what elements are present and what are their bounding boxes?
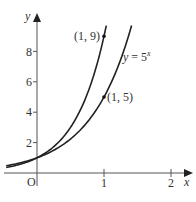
- y-tick-label-4: 4: [26, 105, 32, 119]
- exponential-graph-figure: y x O 8 6 4 2 1 2 (1, 9) (1, 5) y = 5x: [0, 0, 196, 202]
- y-ticks: [33, 51, 37, 142]
- point-1-5-marker: [102, 95, 106, 99]
- y-tick-label-2: 2: [26, 136, 32, 150]
- point-1-9-label: (1, 9): [74, 29, 100, 43]
- curve-9-power-x: [6, 26, 106, 168]
- y-axis-label: y: [24, 9, 31, 23]
- x-tick-label-1: 1: [101, 176, 107, 190]
- point-1-5-label: (1, 5): [107, 90, 133, 104]
- y-tick-label-6: 6: [26, 75, 32, 89]
- x-tick-label-2: 2: [168, 176, 174, 190]
- curve-5x-label: y = 5x: [122, 49, 151, 64]
- point-1-9-marker: [102, 34, 106, 38]
- x-axis-label: x: [183, 175, 190, 189]
- graph-canvas: y x O 8 6 4 2 1 2 (1, 9) (1, 5) y = 5x: [0, 0, 196, 202]
- y-axis-arrow-icon: [33, 13, 41, 22]
- y-tick-label-8: 8: [26, 45, 32, 59]
- origin-label: O: [27, 175, 36, 189]
